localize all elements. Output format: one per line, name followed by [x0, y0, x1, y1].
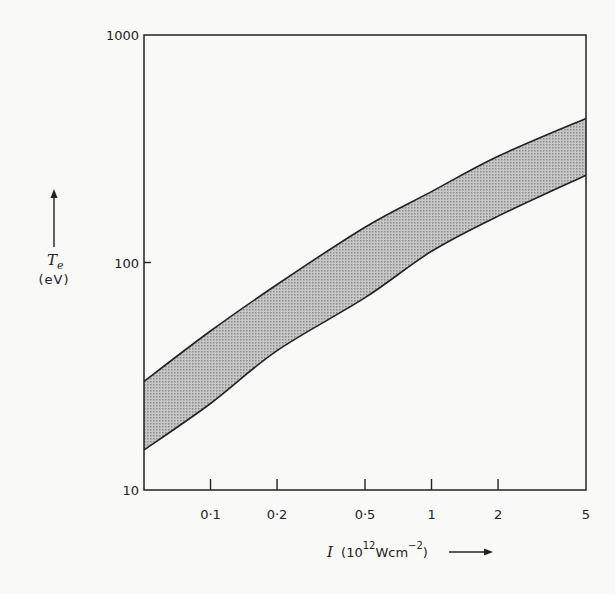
- x-tick-label: 0·1: [200, 507, 221, 522]
- y-tick-label: 10: [122, 483, 139, 498]
- x-tick-label: 1: [427, 507, 435, 522]
- shaded-band: [144, 118, 586, 450]
- x-tick-label: 0·2: [267, 507, 288, 522]
- x-tick-label: 5: [582, 507, 590, 522]
- lower-bound-line: [144, 175, 586, 450]
- band-fill: [144, 118, 586, 450]
- x-axis-ticks: 0·10·20·5125: [200, 479, 590, 522]
- chart: 0·10·20·5125 101001000 Te (eV) I (1012Wc…: [0, 0, 615, 594]
- x-arrowhead-icon: [484, 549, 493, 556]
- y-axis-symbol: Te: [47, 251, 64, 272]
- x-tick-label: 2: [494, 507, 502, 522]
- y-axis-unit: (eV): [38, 272, 69, 287]
- y-tick-label: 100: [114, 256, 139, 271]
- y-arrowhead-icon: [51, 189, 58, 198]
- y-tick-label: 1000: [106, 28, 139, 43]
- x-axis-label: I (1012Wcm−2): [326, 540, 428, 561]
- x-tick-label: 0·5: [355, 507, 376, 522]
